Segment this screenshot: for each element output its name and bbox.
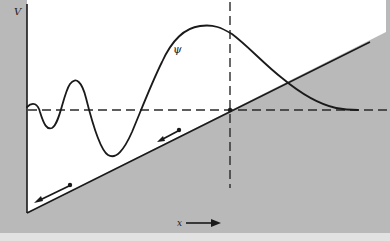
quantum-potential-diagram: V ψ x	[0, 0, 390, 241]
turning-point-marker	[228, 108, 232, 112]
bottom-strip	[0, 233, 390, 241]
x-axis-label: x	[177, 218, 182, 228]
wavefunction-label: ψ	[173, 43, 182, 56]
